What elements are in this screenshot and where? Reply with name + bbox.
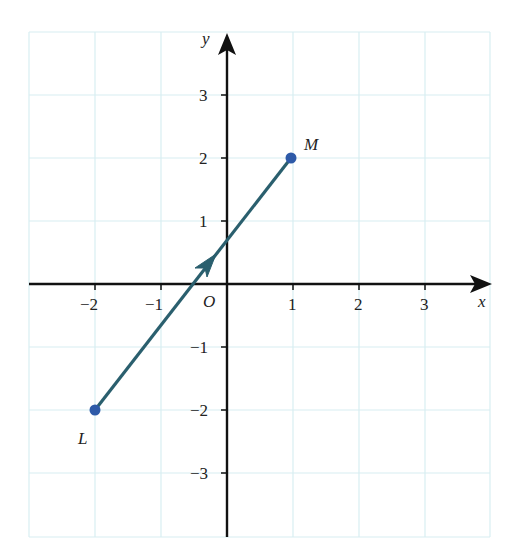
x-tick-label: −2 <box>80 296 98 313</box>
x-tick-label: 1 <box>288 296 297 313</box>
y-tick-label: 1 <box>199 213 208 230</box>
coordinate-diagram <box>0 0 512 548</box>
vector-arrowhead-icon <box>195 254 216 277</box>
x-tick-label: 3 <box>420 296 429 313</box>
x-tick-label: 2 <box>354 296 363 313</box>
point-L-label: L <box>78 430 87 447</box>
y-tick-label: 3 <box>199 87 208 104</box>
axes <box>29 46 478 537</box>
origin-label: O <box>203 293 215 310</box>
point-M-label: M <box>304 136 318 153</box>
y-axis-label: y <box>202 30 210 47</box>
y-tick-label: −3 <box>190 465 208 482</box>
y-tick-label: 2 <box>199 150 208 167</box>
x-tick-label: −1 <box>145 296 163 313</box>
y-tick-label: −2 <box>190 402 208 419</box>
point-L <box>90 405 101 416</box>
y-tick-label: −1 <box>190 339 208 356</box>
point-M <box>286 153 297 164</box>
x-axis-label: x <box>478 293 486 310</box>
